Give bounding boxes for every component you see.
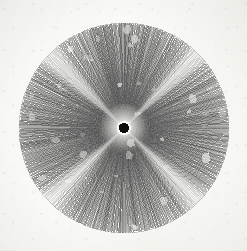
radial-disc-graphic: [0, 0, 247, 251]
scan-blemish: [202, 112, 209, 116]
scan-blemish: [96, 36, 100, 41]
scan-blemish: [127, 138, 135, 146]
scan-blemish: [134, 111, 141, 116]
scan-blemish: [51, 65, 56, 69]
scan-blemish: [85, 177, 87, 179]
scan-blemish: [62, 103, 65, 106]
scan-blemish: [202, 153, 210, 164]
scan-blemish: [218, 108, 226, 117]
scan-blemish: [151, 88, 156, 92]
scan-blemish: [170, 213, 175, 217]
scan-blemish: [65, 179, 72, 183]
scan-blemish: [29, 113, 36, 121]
scan-blemish: [80, 132, 85, 136]
scan-blemish: [117, 82, 122, 87]
scan-blemish: [202, 125, 207, 128]
scan-blemish: [178, 73, 180, 75]
scan-blemish: [125, 151, 132, 159]
scan-blemish: [60, 89, 67, 93]
scan-blemish: [161, 35, 164, 38]
scan-blemish: [49, 170, 52, 172]
figure-canvas: [0, 0, 247, 251]
scan-blemish: [160, 137, 164, 141]
scan-blemish: [79, 151, 86, 159]
scan-blemish: [131, 35, 138, 43]
scan-blemish: [100, 190, 104, 193]
scan-blemish: [128, 42, 133, 47]
scan-blemish: [51, 138, 59, 143]
scan-blemish: [47, 194, 52, 197]
scan-blemish: [76, 104, 79, 106]
scan-blemish: [131, 225, 134, 229]
scan-blemish: [161, 197, 168, 206]
scan-blemish: [29, 93, 34, 98]
scan-blemish: [39, 175, 47, 181]
scan-blemish: [90, 59, 93, 61]
scan-blemish: [57, 85, 63, 89]
scan-blemish: [137, 81, 143, 85]
scan-blemish: [123, 25, 131, 33]
scan-blemish: [189, 95, 196, 104]
scan-blemish: [207, 86, 214, 92]
center-dot: [119, 123, 129, 133]
scan-blemish: [164, 165, 169, 168]
scan-blemish: [58, 174, 61, 176]
scan-blemish: [114, 175, 119, 178]
scan-blemish: [67, 46, 74, 52]
scan-blemish: [83, 55, 91, 60]
scan-blemish: [187, 110, 191, 114]
